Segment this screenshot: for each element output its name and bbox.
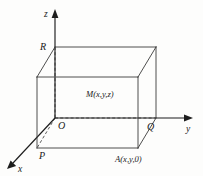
point-labels-group: M(x,y,z)A(x,y,0)	[85, 89, 142, 164]
origin-to-p-dashed	[37, 118, 55, 148]
point-label-M: M(x,y,z)	[85, 89, 114, 99]
vertex-label-P: P	[38, 150, 45, 161]
axis-label-y: y	[185, 124, 191, 134]
axis-label-x: x	[17, 164, 23, 174]
axis-arrowhead-y	[184, 115, 193, 122]
axis-label-z: z	[43, 9, 48, 19]
vertex-label-R: R	[39, 41, 46, 52]
axis-arrowhead-z	[52, 9, 59, 18]
axis-line-x	[13, 118, 55, 163]
top-right-edge	[138, 47, 156, 77]
coordinate-cuboid-diagram: ROQP M(x,y,z)A(x,y,0) zyx	[0, 0, 203, 176]
geometry-figure: ROQP M(x,y,z)A(x,y,0) zyx	[0, 0, 203, 176]
vertex-label-O: O	[58, 120, 65, 131]
point-label-A: A(x,y,0)	[114, 154, 142, 164]
vertex-label-Q: Q	[147, 121, 155, 132]
